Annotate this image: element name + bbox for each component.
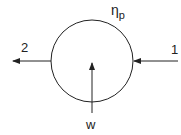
pump-diagram [0,0,181,135]
inlet-label: 1 [171,43,178,56]
outlet-label: 2 [21,41,28,54]
work-label: w [86,118,95,131]
efficiency-label: ηp [111,3,125,21]
